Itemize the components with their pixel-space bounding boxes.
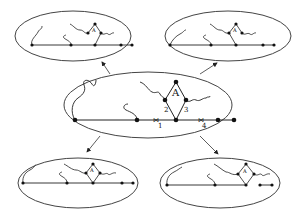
wavy-edge <box>124 104 137 120</box>
node <box>135 118 140 123</box>
top-right-configuration: A <box>165 11 291 61</box>
node <box>174 80 179 85</box>
top-right-ellipse <box>165 11 291 61</box>
wavy-edge <box>186 96 210 101</box>
label-A: A <box>171 87 180 98</box>
edge-label-4: 4 <box>202 122 207 130</box>
label-A: A <box>89 167 94 173</box>
edge-label-3: 3 <box>184 106 188 114</box>
label-A: A <box>232 27 237 33</box>
node <box>184 98 189 103</box>
node <box>216 118 221 123</box>
center-ellipse <box>64 72 232 138</box>
diagram-canvas: ⋈ ⋈ A 1 2 3 4 A <box>0 0 297 215</box>
edge-label-2: 2 <box>164 106 168 114</box>
top-left-ellipse <box>15 11 131 61</box>
edge-label-1: 1 <box>158 122 162 130</box>
arrow-to-bottom-right <box>200 136 218 154</box>
arrow-to-top-left <box>102 62 110 74</box>
center-configuration: ⋈ ⋈ A 1 2 3 4 <box>64 72 236 138</box>
node <box>174 118 179 123</box>
bottom-right-ellipse <box>160 158 280 208</box>
node <box>163 98 168 103</box>
node <box>73 118 78 123</box>
label-A: A <box>242 168 247 174</box>
label-A: A <box>91 27 96 33</box>
bottom-left-configuration: A <box>18 158 138 208</box>
arrow-to-top-right <box>200 63 217 74</box>
node <box>232 118 237 123</box>
top-left-configuration: A <box>15 11 134 61</box>
bottom-right-configuration: A <box>160 158 280 208</box>
wavy-edge <box>140 82 165 100</box>
arrow-to-bottom-left <box>87 136 100 152</box>
wavy-edge <box>72 80 96 120</box>
diagram-svg: ⋈ ⋈ A 1 2 3 4 A <box>0 0 297 215</box>
